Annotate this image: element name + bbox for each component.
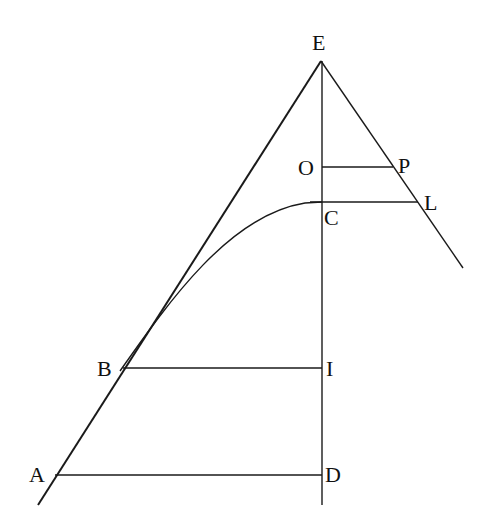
line-EL <box>321 61 463 268</box>
label-D: D <box>325 462 341 487</box>
label-P: P <box>398 153 410 178</box>
label-I: I <box>326 356 333 381</box>
label-E: E <box>312 30 325 55</box>
label-A: A <box>29 462 45 487</box>
line-EA <box>38 61 321 505</box>
curve-BC <box>120 202 322 371</box>
label-O: O <box>298 155 314 180</box>
geometric-diagram: E O P C L B I A D <box>0 0 491 530</box>
label-C: C <box>324 205 339 230</box>
label-L: L <box>424 190 437 215</box>
label-B: B <box>97 356 112 381</box>
